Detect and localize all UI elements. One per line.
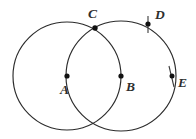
point-b-dot — [118, 73, 123, 78]
figure-canvas: A B C D E — [0, 0, 196, 139]
points-group — [64, 21, 174, 78]
point-label-a: A — [59, 82, 69, 97]
labels-group: A B C D E — [59, 6, 187, 97]
point-d-dot — [145, 21, 150, 26]
point-a-dot — [64, 73, 69, 78]
point-label-b: B — [125, 79, 135, 94]
point-label-e: E — [177, 75, 187, 90]
circles-group — [13, 21, 176, 131]
point-label-d: D — [154, 7, 165, 22]
point-e-dot — [170, 74, 175, 79]
point-label-c: C — [88, 6, 98, 21]
point-c-dot — [92, 25, 97, 30]
geometry-figure: A B C D E — [0, 0, 196, 139]
